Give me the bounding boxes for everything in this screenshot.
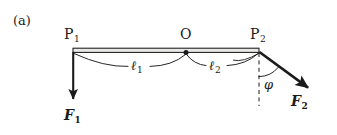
point-label-p2-text: P <box>250 26 259 42</box>
force-label-f1-subscript: 1 <box>74 115 81 125</box>
force-label-f2-text: F <box>291 93 301 109</box>
angle-label-phi: φ <box>264 78 273 91</box>
length-label-l1: ℓ1 <box>131 59 143 75</box>
figure-drawing-canvas <box>0 0 337 135</box>
length-label-l2: ℓ2 <box>209 59 221 75</box>
point-label-p2-subscript: 2 <box>259 34 265 44</box>
lever-bar <box>73 48 259 52</box>
hinge-arc-p2 <box>233 53 259 60</box>
point-label-p1-subscript: 1 <box>73 34 79 44</box>
length-label-l2-subscript: 2 <box>214 65 220 75</box>
force-label-f1: F1 <box>64 108 81 125</box>
length-brace-l1-left <box>74 54 128 67</box>
length-brace-l1-right <box>150 55 185 67</box>
physics-figure-panel-a: (a) P1 O P2 ℓ1 ℓ2 F1 F2 φ <box>0 0 337 135</box>
force-label-f1-text: F <box>64 107 74 123</box>
pivot-point-o-dot <box>184 50 189 55</box>
point-label-o: O <box>180 27 191 41</box>
angle-arc-phi <box>259 67 278 76</box>
panel-tag-label: (a) <box>13 14 31 27</box>
length-brace-l2-left <box>187 55 206 66</box>
point-label-o-text: O <box>180 26 191 42</box>
force-label-f2-subscript: 2 <box>301 101 308 111</box>
force-label-f2: F2 <box>291 94 308 111</box>
length-label-l1-subscript: 1 <box>136 65 142 75</box>
length-brace-l2-right <box>227 54 258 66</box>
point-label-p2: P2 <box>250 27 266 44</box>
point-label-p1-text: P <box>64 26 73 42</box>
point-label-p1: P1 <box>64 27 80 44</box>
